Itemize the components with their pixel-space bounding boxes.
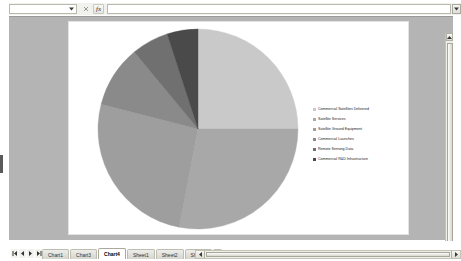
legend-item[interactable]: Commercial Satellites Delivered [313,104,409,114]
legend-item[interactable]: Satellite Ground Equipment [313,124,409,134]
fx-icon[interactable]: fx [93,4,104,14]
vertical-scrollbar[interactable] [445,33,453,257]
legend-swatch-icon [313,118,316,121]
legend-item-label: Commercial R&D Infrastructure [318,157,368,162]
legend-item-label: Commercial Satellites Delivered [318,107,369,112]
expand-formula-bar-icon[interactable] [452,4,461,14]
prev-icon[interactable] [19,249,26,258]
legend-swatch-icon [313,138,316,141]
pie-slice[interactable] [179,129,298,229]
fx-label: fx [96,6,101,13]
legend-swatch-icon [313,148,316,151]
legend-item-label: Commercial Launches [318,137,354,142]
next-icon[interactable] [27,249,34,258]
pie-slice[interactable] [198,29,298,129]
first-icon[interactable] [11,249,18,258]
sheet-tab-bar: Chart1Chart3Chart4Sheet1Sheet2Sheet3 [9,241,461,261]
pie-chart-svg[interactable] [97,28,299,230]
sheet-tab-chart4[interactable]: Chart4 [98,248,126,259]
left-page-strip [0,0,9,261]
legend-swatch-icon [313,158,316,161]
legend-swatch-icon [313,128,316,131]
name-box[interactable] [9,4,77,14]
left-edge-marker [0,155,3,173]
sheet-tab-sheet1[interactable]: Sheet1 [127,249,155,259]
legend-item[interactable]: Commercial Launches [313,134,409,144]
vertical-scrollbar-thumb[interactable] [447,43,453,247]
excel-chart-sheet-window: fx Commercial Satellites DeliveredSatell… [0,0,461,261]
legend-item-label: Remote Sensing Data [318,147,353,152]
pie-chart[interactable] [97,28,299,230]
cancel-icon[interactable] [80,4,91,14]
legend-item[interactable]: Remote Sensing Data [313,144,409,154]
chart-legend[interactable]: Commercial Satellites DeliveredSatellite… [313,104,409,164]
formula-input[interactable] [107,4,451,14]
sheet-tab-chart1[interactable]: Chart1 [42,249,69,259]
sheet-navigation-buttons[interactable] [11,249,42,258]
legend-item-label: Satellite Ground Equipment [318,127,362,132]
chevron-down-icon[interactable] [67,5,76,13]
sheet-tab-chart3[interactable]: Chart3 [70,249,97,259]
legend-item[interactable]: Commercial R&D Infrastructure [313,154,409,164]
caret-right-icon[interactable] [451,251,460,258]
legend-swatch-icon [313,108,316,111]
caret-up-icon[interactable] [446,33,453,41]
last-icon[interactable] [35,249,42,258]
sheet-tab-sheet2[interactable]: Sheet2 [156,249,184,259]
legend-item-label: Satellite Services [318,117,346,122]
formula-bar-buttons: fx [77,3,107,15]
horizontal-scrollbar[interactable] [195,250,461,259]
chart-sheet-workspace[interactable]: Commercial Satellites DeliveredSatellite… [9,16,453,240]
caret-left-icon[interactable] [196,251,205,258]
legend-item[interactable]: Satellite Services [313,114,409,124]
horizontal-scrollbar-thumb[interactable] [206,252,450,257]
chart-canvas[interactable]: Commercial Satellites DeliveredSatellite… [68,21,409,235]
formula-bar: fx [9,3,461,15]
